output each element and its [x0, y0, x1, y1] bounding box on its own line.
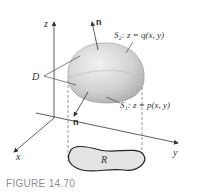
region-d-label: D [31, 71, 40, 82]
x-axis-label: x [15, 151, 21, 162]
region-r-label: R [100, 154, 107, 165]
normal-bottom-label: n [73, 117, 79, 127]
surface-s2-label: S₂: z = q(x, y) [114, 30, 164, 40]
normal-top-label: n [96, 17, 102, 27]
solid-region [68, 43, 144, 103]
y-axis-label: y [172, 147, 178, 158]
surface-s1-label: S₁: z = p(x, y) [120, 100, 170, 110]
diagram-canvas: z x y n n D R S₂: z = q(x, y) S₁: z = p(… [0, 0, 202, 194]
y-axis [36, 113, 178, 143]
x-axis [14, 118, 54, 152]
z-axis-label: z [43, 18, 48, 29]
figure-caption: FIGURE 14.70 [6, 178, 75, 189]
